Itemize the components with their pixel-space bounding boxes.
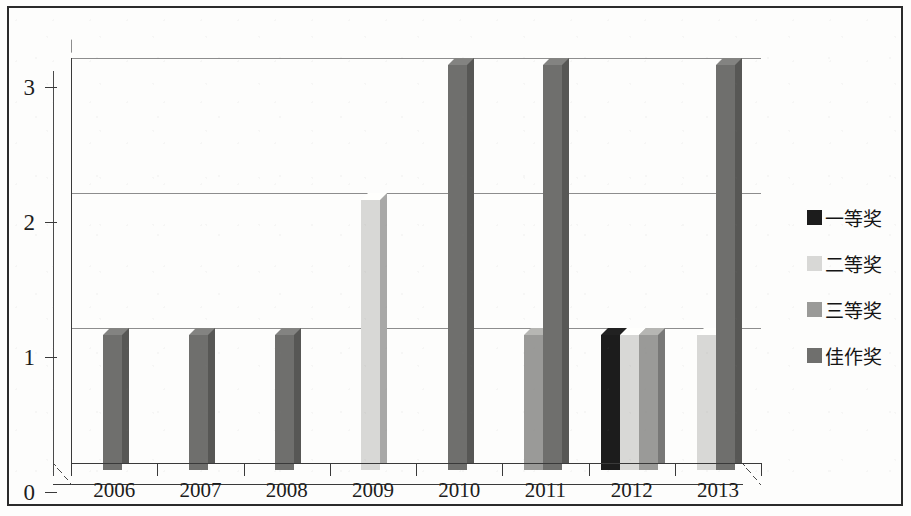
- bar: [448, 65, 467, 470]
- bar-side: [735, 58, 742, 463]
- legend-swatch-icon: [807, 210, 822, 225]
- gridline: [71, 58, 761, 59]
- x-axis-tick-label: 2012: [611, 478, 653, 503]
- x-axis-tick: [71, 463, 72, 476]
- bar: [275, 335, 294, 470]
- legend-item-label: 一等奖: [825, 204, 882, 231]
- bar-face: [716, 65, 735, 470]
- y-axis-tick: 3: [45, 87, 57, 88]
- bar: [601, 335, 620, 470]
- bar: [620, 335, 639, 470]
- bar-side: [208, 328, 215, 463]
- legend-item[interactable]: 佳作奖: [807, 332, 907, 378]
- x-axis-tick: [675, 463, 676, 476]
- bar: [524, 335, 543, 470]
- legend-item[interactable]: 二等奖: [807, 240, 907, 286]
- legend-item-label: 三等奖: [825, 296, 882, 323]
- bar-side: [658, 328, 665, 463]
- bar-face: [103, 335, 122, 470]
- legend-swatch-icon: [807, 302, 822, 317]
- y-axis-line: [71, 58, 72, 463]
- floor-right-edge: [742, 463, 761, 485]
- x-axis-tick: [157, 463, 158, 476]
- bar-face: [189, 335, 208, 470]
- y-axis-tick-label: 0: [24, 480, 36, 506]
- chart-legend: 一等奖二等奖三等奖佳作奖: [807, 194, 907, 378]
- x-axis-tick-label: 2010: [438, 478, 480, 503]
- y-axis-tick-label: 1: [24, 345, 36, 371]
- bar-side: [562, 58, 569, 463]
- y-axis-tick-label: 3: [24, 75, 36, 101]
- x-axis-tick: [589, 463, 590, 476]
- legend-item[interactable]: 一等奖: [807, 194, 907, 240]
- bar-face: [601, 335, 620, 470]
- plot-area: 3210: [71, 42, 761, 474]
- chart-floor: [53, 463, 761, 485]
- bar: [716, 65, 735, 470]
- bar-face: [275, 335, 294, 470]
- bar-side: [294, 328, 301, 463]
- legend-item-label: 佳作奖: [825, 342, 882, 369]
- legend-item-label: 二等奖: [825, 250, 882, 277]
- bar-side: [467, 58, 474, 463]
- gridline-riser: [71, 174, 90, 200]
- chart-frame: 3210 20062007200820092010201120122013 一等…: [7, 6, 903, 506]
- bar-face: [448, 65, 467, 470]
- bar: [361, 200, 380, 470]
- x-axis-tick: [761, 463, 762, 476]
- floor-left-edge: [53, 463, 72, 485]
- bar-side: [380, 193, 387, 463]
- bar: [543, 65, 562, 470]
- x-axis-tick-label: 2011: [525, 478, 566, 503]
- y-axis-tick-label: 2: [24, 210, 36, 236]
- legend-item[interactable]: 三等奖: [807, 286, 907, 332]
- legend-swatch-icon: [807, 256, 822, 271]
- bar-side: [122, 328, 129, 463]
- bar-face: [543, 65, 562, 470]
- y-axis-front-line: [53, 71, 54, 476]
- bar-face: [620, 335, 639, 470]
- x-axis-tick-label: 2006: [93, 478, 135, 503]
- bar-face: [361, 200, 380, 470]
- x-axis-tick: [330, 463, 331, 476]
- x-axis-tick: [416, 463, 417, 476]
- bar: [639, 335, 658, 470]
- x-axis-tick: [502, 463, 503, 476]
- x-axis-tick-label: 2013: [697, 478, 739, 503]
- x-axis-tick-label: 2007: [179, 478, 221, 503]
- bar-face: [524, 335, 543, 470]
- y-axis-tick: 2: [45, 222, 57, 223]
- x-axis-tick-label: 2009: [352, 478, 394, 503]
- gridline-riser: [71, 309, 90, 335]
- y-axis-tick: 1: [45, 357, 57, 358]
- gridline: [71, 193, 761, 194]
- x-axis-tick: [244, 463, 245, 476]
- bar-face: [697, 335, 716, 470]
- bar-face: [639, 335, 658, 470]
- legend-swatch-icon: [807, 348, 822, 363]
- y-axis-tick: 0: [45, 492, 57, 493]
- x-axis-tick-label: 2008: [266, 478, 308, 503]
- bar: [189, 335, 208, 470]
- gridline-riser: [71, 39, 90, 65]
- bar: [697, 335, 716, 470]
- chart-screenshot: 3210 20062007200820092010201120122013 一等…: [0, 0, 911, 516]
- bar: [103, 335, 122, 470]
